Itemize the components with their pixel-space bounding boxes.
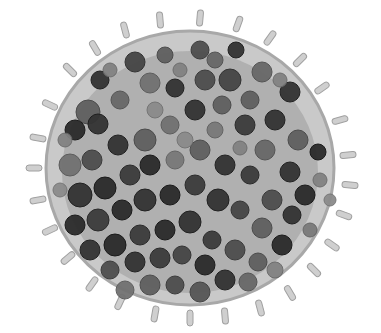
granule	[134, 189, 156, 211]
granule	[160, 185, 180, 205]
granule	[140, 73, 160, 93]
granule	[140, 275, 160, 295]
granule	[94, 177, 116, 199]
granule	[185, 175, 205, 195]
granule	[130, 225, 150, 245]
granule	[68, 183, 92, 207]
granule	[166, 276, 184, 294]
granule	[190, 140, 210, 160]
granule	[195, 70, 215, 90]
granule	[195, 255, 215, 275]
granule	[225, 240, 245, 260]
granule	[112, 200, 132, 220]
granule	[150, 248, 170, 268]
granule	[125, 252, 145, 272]
granule	[108, 135, 128, 155]
granule	[207, 189, 229, 211]
granule	[288, 130, 308, 150]
granule	[255, 140, 275, 160]
granule	[53, 183, 67, 197]
granule	[207, 122, 223, 138]
granule	[120, 165, 140, 185]
granule	[87, 209, 109, 231]
granule	[103, 63, 117, 77]
membrane-protrusion	[156, 12, 163, 28]
granule	[116, 281, 134, 299]
granule	[155, 220, 175, 240]
granule	[203, 231, 221, 249]
granule	[235, 115, 255, 135]
granule	[157, 47, 173, 63]
granule	[295, 185, 315, 205]
membrane-protrusion	[221, 308, 228, 324]
membrane-protrusion	[26, 165, 42, 171]
granule	[313, 173, 327, 187]
granule	[179, 211, 201, 233]
granule	[104, 234, 126, 256]
granule	[283, 206, 301, 224]
granule	[101, 261, 119, 279]
granule	[272, 235, 292, 255]
granule	[228, 42, 244, 58]
granule	[252, 218, 272, 238]
granule	[59, 154, 81, 176]
granule	[82, 150, 102, 170]
granule	[177, 132, 193, 148]
cell-illustration	[0, 0, 381, 333]
granule	[241, 91, 259, 109]
granule	[303, 223, 317, 237]
granule	[219, 69, 241, 91]
granule	[173, 246, 191, 264]
granule	[88, 114, 108, 134]
granule	[190, 282, 210, 302]
granule	[262, 190, 282, 210]
granule	[265, 110, 285, 130]
granule	[185, 100, 205, 120]
granule	[65, 215, 85, 235]
granule	[252, 62, 272, 82]
granule	[166, 79, 184, 97]
granule	[241, 166, 259, 184]
granule	[249, 253, 267, 271]
membrane-protrusion	[342, 181, 358, 188]
granule	[280, 162, 300, 182]
granule	[239, 273, 257, 291]
granule	[273, 73, 287, 87]
granule	[166, 151, 184, 169]
granule	[215, 270, 235, 290]
membrane-protrusion	[340, 151, 356, 158]
granule	[111, 91, 129, 109]
membrane-protrusion	[196, 10, 203, 26]
granule	[213, 96, 231, 114]
granule	[161, 116, 179, 134]
granule	[191, 41, 209, 59]
membrane-protrusion	[187, 310, 193, 326]
granule	[233, 141, 247, 155]
granule	[231, 201, 249, 219]
granule	[324, 194, 336, 206]
granule	[140, 155, 160, 175]
granule	[310, 144, 326, 160]
granule	[173, 63, 187, 77]
granule	[207, 52, 223, 68]
granule	[80, 240, 100, 260]
granule	[147, 102, 163, 118]
granule	[215, 155, 235, 175]
granule	[134, 129, 156, 151]
granule	[125, 52, 145, 72]
granule	[267, 262, 283, 278]
granule	[58, 133, 72, 147]
